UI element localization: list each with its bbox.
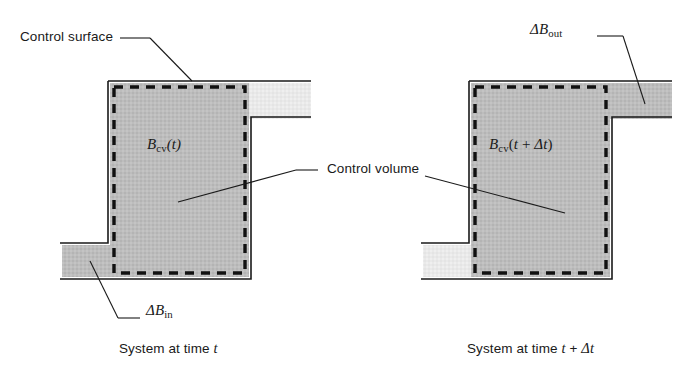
left-panel-group bbox=[60, 38, 318, 318]
left-inlet-pipe-fill bbox=[62, 245, 110, 277]
right-panel-group bbox=[421, 36, 672, 279]
right-tank-fill bbox=[471, 83, 610, 277]
right-caption-prefix: System at time bbox=[467, 341, 562, 356]
delta-b-in-label: ΔBin bbox=[146, 302, 173, 320]
delta-b-in-symbol: ΔB bbox=[146, 302, 164, 318]
control-volume-label: Control volume bbox=[327, 161, 419, 176]
diagram-canvas bbox=[0, 0, 690, 370]
left-cv-argument: (t) bbox=[167, 136, 181, 152]
right-outlet-pipe-fill bbox=[610, 83, 672, 119]
right-cv-subscript: cv bbox=[498, 142, 508, 154]
left-outlet-pipe-fill bbox=[249, 83, 311, 119]
left-cv-subscript: cv bbox=[156, 142, 166, 154]
delta-b-out-label: ΔBout bbox=[530, 21, 562, 39]
delta-b-out-subscript: out bbox=[548, 27, 562, 39]
delta-b-in-subscript: in bbox=[164, 308, 173, 320]
right-cv-arg-delta-t: Δt bbox=[534, 136, 547, 152]
right-cv-quantity-label: Bcv(t + Δt) bbox=[489, 136, 553, 154]
left-panel-caption: System at time t bbox=[119, 340, 218, 357]
control-surface-label: Control surface bbox=[20, 29, 113, 44]
right-cv-paren-close: ) bbox=[547, 136, 552, 152]
right-caption-delta-t: Δt bbox=[581, 340, 594, 356]
left-tank-fill bbox=[110, 83, 249, 277]
control-volume-figure: Control surface Control volume ΔBin ΔBou… bbox=[0, 0, 690, 370]
right-cv-symbol: B bbox=[489, 136, 498, 152]
left-cv-symbol: B bbox=[147, 136, 156, 152]
control-surface-leader-line bbox=[150, 38, 192, 81]
right-panel-caption: System at time t + Δt bbox=[467, 340, 594, 357]
right-inlet-pipe-fill bbox=[423, 245, 471, 277]
left-caption-prefix: System at time bbox=[119, 341, 214, 356]
delta-b-out-symbol: ΔB bbox=[530, 21, 548, 37]
right-caption-plus: + bbox=[566, 341, 582, 356]
left-cv-quantity-label: Bcv(t) bbox=[147, 136, 181, 154]
left-caption-variable: t bbox=[214, 340, 218, 356]
right-cv-arg-plus: + bbox=[518, 136, 534, 152]
